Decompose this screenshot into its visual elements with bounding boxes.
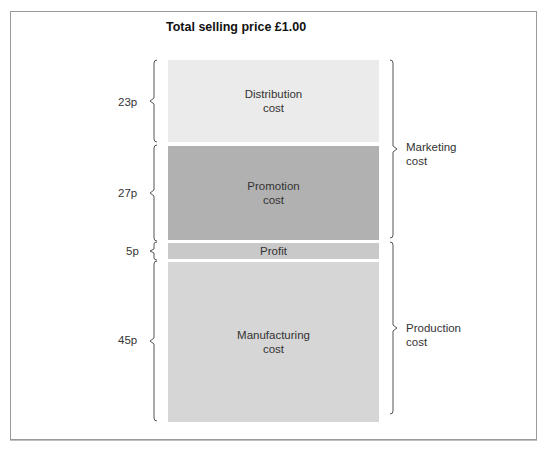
right-brace-production-icon bbox=[390, 242, 397, 414]
left-brace-profit-icon bbox=[150, 242, 157, 260]
right-brace-marketing-icon bbox=[390, 60, 397, 238]
left-brace-promotion-icon bbox=[150, 145, 157, 241]
left-brace-manufacturing-icon bbox=[150, 261, 157, 421]
left-brace-distribution-icon bbox=[150, 60, 157, 142]
brace-icons bbox=[0, 0, 548, 457]
